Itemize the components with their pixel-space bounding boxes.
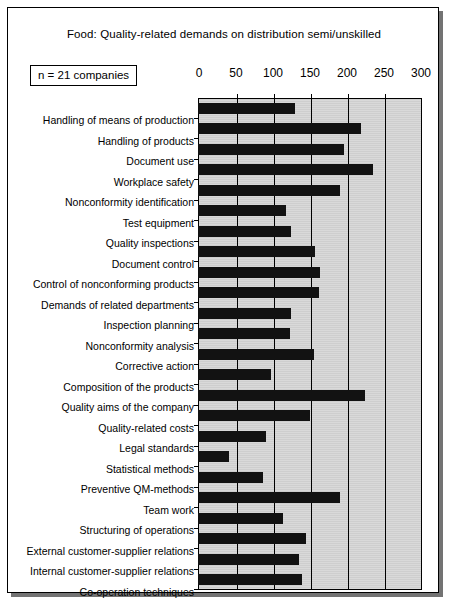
category-tick <box>194 200 198 201</box>
bar-row <box>198 390 422 401</box>
bar <box>198 410 310 421</box>
category-label: Team work <box>14 505 194 516</box>
category-tick <box>194 466 198 467</box>
bar <box>198 246 315 257</box>
category-label: Handling of products <box>14 136 194 147</box>
chart-frame: Food: Quality-related demands on distrib… <box>7 7 439 593</box>
bar-row <box>198 492 422 503</box>
bar <box>198 144 344 155</box>
category-tick <box>194 118 198 119</box>
category-label: Quality inspections <box>14 238 194 249</box>
x-tick-label-200: 200 <box>337 66 357 80</box>
category-tick <box>194 179 198 180</box>
bar <box>198 533 306 544</box>
chart-title: Food: Quality-related demands on distrib… <box>8 28 440 40</box>
bar <box>198 123 361 134</box>
category-tick <box>194 138 198 139</box>
bar-row <box>198 246 422 257</box>
bar-row <box>198 185 422 196</box>
bar <box>198 349 314 360</box>
bar-series <box>198 98 422 590</box>
bar-row <box>198 472 422 483</box>
bar-row <box>198 451 422 462</box>
bar <box>198 164 373 175</box>
category-tick <box>194 282 198 283</box>
bar-row <box>198 226 422 237</box>
bar <box>198 287 319 298</box>
category-tick <box>194 220 198 221</box>
x-axis-tick-labels: 050100150200250300 <box>198 66 434 84</box>
category-label: Legal standards <box>14 443 194 454</box>
bar-row <box>198 103 422 114</box>
bar <box>198 574 302 585</box>
x-tick-label-300: 300 <box>411 66 431 80</box>
category-tick <box>194 528 198 529</box>
bar <box>198 328 290 339</box>
category-tick <box>194 569 198 570</box>
category-label: Quality-related costs <box>14 423 194 434</box>
category-tick <box>194 507 198 508</box>
bar-row <box>198 123 422 134</box>
category-label: Document use <box>14 156 194 167</box>
bar-row <box>198 513 422 524</box>
x-tick-label-150: 150 <box>300 66 320 80</box>
category-label: Quality aims of the company <box>14 402 194 413</box>
category-label: Nonconformity identification <box>14 197 194 208</box>
bar <box>198 492 340 503</box>
category-tick <box>194 548 198 549</box>
category-tick <box>194 384 198 385</box>
bar <box>198 451 229 462</box>
x-tick-label-50: 50 <box>229 66 242 80</box>
bar-row <box>198 144 422 155</box>
bar <box>198 390 365 401</box>
category-tick <box>194 446 198 447</box>
bar-row <box>198 287 422 298</box>
plot-area <box>198 86 422 602</box>
category-label: Document control <box>14 259 194 270</box>
bar <box>198 554 299 565</box>
category-tick <box>194 302 198 303</box>
x-tick-label-0: 0 <box>196 66 203 80</box>
bar-row <box>198 267 422 278</box>
bar-row <box>198 164 422 175</box>
category-tick <box>194 364 198 365</box>
bar <box>198 431 266 442</box>
bar-row <box>198 369 422 380</box>
category-label: Composition of the products <box>14 382 194 393</box>
sample-size-note: n = 21 companies <box>30 65 137 86</box>
category-label: Statistical methods <box>14 464 194 475</box>
category-label: Handling of means of production <box>14 115 194 126</box>
category-tick <box>194 589 198 590</box>
bar-row <box>198 328 422 339</box>
category-tick <box>194 487 198 488</box>
category-label: Demands of related departments <box>14 300 194 311</box>
category-label: Corrective action <box>14 361 194 372</box>
category-tick <box>194 405 198 406</box>
category-label: Workplace safety <box>14 177 194 188</box>
bar <box>198 103 295 114</box>
category-tick <box>194 261 198 262</box>
bar <box>198 308 291 319</box>
category-label: Nonconformity analysis <box>14 341 194 352</box>
bar <box>198 226 291 237</box>
bar-row <box>198 533 422 544</box>
bar-row <box>198 574 422 585</box>
bar <box>198 472 263 483</box>
bar <box>198 205 286 216</box>
category-tick <box>194 159 198 160</box>
category-label: Internal customer-supplier relations <box>14 566 194 577</box>
bar-row <box>198 205 422 216</box>
category-tick <box>194 241 198 242</box>
bar <box>198 513 283 524</box>
bar <box>198 185 340 196</box>
bar-row <box>198 410 422 421</box>
bar-row <box>198 431 422 442</box>
bar <box>198 369 271 380</box>
category-label: Co-operation techniques <box>14 587 194 598</box>
category-label: Control of nonconforming products <box>14 279 194 290</box>
category-label: Test equipment <box>14 218 194 229</box>
category-tick <box>194 323 198 324</box>
bar-row <box>198 308 422 319</box>
category-tick <box>194 343 198 344</box>
category-label: Inspection planning <box>14 320 194 331</box>
